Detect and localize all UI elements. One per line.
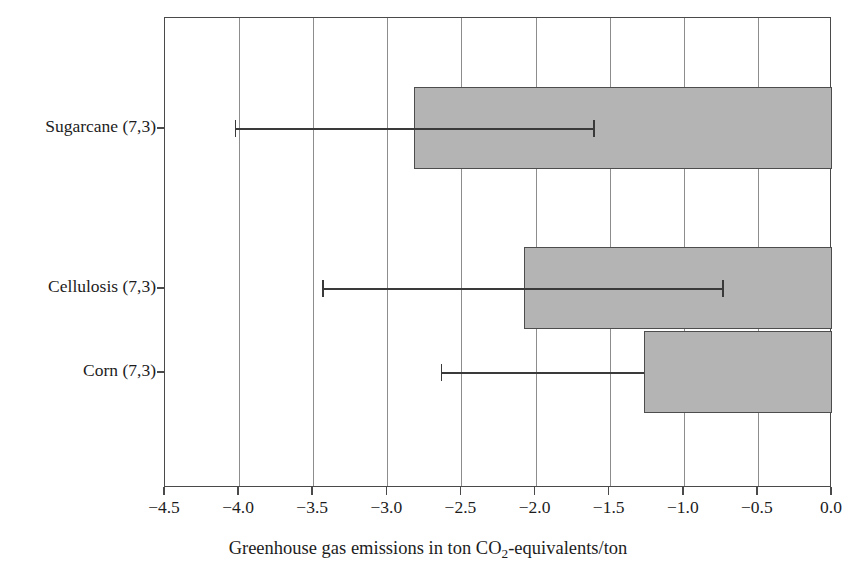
gridline-x-minus3.0 — [387, 18, 388, 486]
bar-corn — [644, 331, 832, 413]
gridline-x-0.0 — [832, 18, 833, 486]
error-bar-cap-low-sugarcane — [235, 120, 237, 137]
x-axis-tick-2 — [311, 487, 313, 495]
x-axis-tick-8 — [756, 487, 758, 495]
y-axis-label-cellulosis: Cellulosis (7,3) — [0, 276, 156, 297]
x-axis-tick-4 — [460, 487, 462, 495]
x-axis-tick-label-4: −2.5 — [445, 497, 477, 518]
x-axis-tick-1 — [237, 487, 239, 495]
x-axis-tick-label-5: −2.0 — [519, 497, 551, 518]
x-axis-title: Greenhouse gas emissions in ton CO2-equi… — [0, 538, 856, 562]
gridline-x-minus3.5 — [313, 18, 314, 486]
x-axis-tick-label-0: −4.5 — [148, 497, 180, 518]
error-bar-cap-high-sugarcane — [593, 120, 595, 137]
x-axis-tick-0 — [163, 487, 165, 495]
y-axis-tick-sugarcane — [157, 127, 164, 129]
x-axis-tick-6 — [608, 487, 610, 495]
ghg-emissions-bar-chart: Sugarcane (7,3)Cellulosis (7,3)Corn (7,3… — [0, 0, 856, 578]
x-axis-title-before: Greenhouse gas emissions in ton CO — [229, 538, 502, 558]
gridline-x-minus4.0 — [239, 18, 240, 486]
y-axis-tick-cellulosis — [157, 287, 164, 289]
x-axis-tick-label-2: −3.5 — [296, 497, 328, 518]
x-axis-tick-7 — [682, 487, 684, 495]
error-bar-cap-high-cellulosis — [722, 280, 724, 297]
x-axis-tick-label-8: −0.5 — [741, 497, 773, 518]
y-axis-label-sugarcane: Sugarcane (7,3) — [0, 116, 156, 137]
x-axis-tick-label-1: −4.0 — [222, 497, 254, 518]
x-axis-tick-label-7: −1.0 — [667, 497, 699, 518]
x-axis-tick-label-9: 0.0 — [820, 497, 842, 518]
x-axis-tick-label-6: −1.5 — [593, 497, 625, 518]
y-axis-label-corn: Corn (7,3) — [0, 360, 156, 381]
error-bar-cap-low-corn — [441, 364, 443, 381]
error-bar-line-cellulosis — [322, 288, 722, 290]
gridline-x-minus4.5 — [165, 18, 166, 486]
x-axis-title-after: -equivalents/ton — [508, 538, 627, 558]
error-bar-line-sugarcane — [235, 128, 594, 130]
x-axis-tick-9 — [830, 487, 832, 495]
x-axis-tick-3 — [386, 487, 388, 495]
x-axis-tick-5 — [534, 487, 536, 495]
error-bar-line-corn — [441, 372, 644, 374]
error-bar-cap-low-cellulosis — [322, 280, 324, 297]
y-axis-tick-corn — [157, 371, 164, 373]
plot-area — [164, 17, 831, 487]
x-axis-tick-label-3: −3.0 — [370, 497, 402, 518]
